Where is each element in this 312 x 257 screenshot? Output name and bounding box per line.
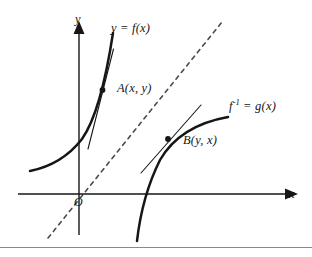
point-marker-b bbox=[165, 136, 171, 142]
origin-label: O bbox=[74, 196, 83, 208]
y-axis-label: y bbox=[75, 13, 81, 26]
x-axis-label: x bbox=[289, 188, 295, 201]
diagram-canvas bbox=[0, 0, 312, 257]
inverse-label-rest: = g(x) bbox=[240, 99, 276, 113]
point-label-b: B(y, x) bbox=[183, 134, 217, 147]
point-marker-a bbox=[100, 87, 106, 93]
point-label-a: A(x, y) bbox=[117, 82, 152, 95]
tangent-line-at-a bbox=[88, 49, 114, 149]
inverse-exponent: -1 bbox=[233, 97, 240, 107]
curve-label-f-of-x: y = f(x) bbox=[111, 22, 150, 35]
curve-label-g-of-x: f-1 = g(x) bbox=[229, 98, 276, 113]
inverse-function-diagram: y = f(x) f-1 = g(x) A(x, y) B(y, x) x y … bbox=[0, 0, 312, 257]
